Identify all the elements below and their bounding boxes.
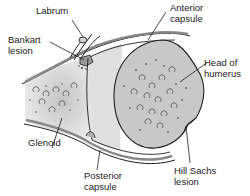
label-head-of-humerus: Head of humerus <box>204 57 241 79</box>
label-glenoid: Glenoid <box>28 137 61 148</box>
label-anterior-capsule: Anterior capsule <box>170 2 203 24</box>
label-hill-sachs-lesion: Hill Sachs lesion <box>174 165 216 187</box>
label-labrum: Labrum <box>36 5 68 16</box>
label-bankart-lesion: Bankart lesion <box>8 34 41 56</box>
humeral-head <box>114 40 204 148</box>
label-posterior-capsule: Posterior capsule <box>84 170 122 192</box>
labrum <box>79 37 87 43</box>
